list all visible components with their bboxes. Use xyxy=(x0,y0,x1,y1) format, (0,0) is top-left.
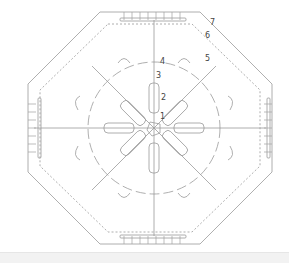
radial-spokes xyxy=(34,20,266,236)
round-label-2: 2 xyxy=(161,94,166,102)
crochet-diagram xyxy=(0,0,289,252)
round-label-1: 1 xyxy=(160,113,165,121)
round-label-3: 3 xyxy=(156,72,161,80)
round-label-5: 5 xyxy=(205,55,210,63)
round-label-4: 4 xyxy=(160,58,165,66)
round-label-7: 7 xyxy=(210,19,215,27)
bottom-bar xyxy=(0,252,289,263)
round-label-6: 6 xyxy=(205,32,210,40)
